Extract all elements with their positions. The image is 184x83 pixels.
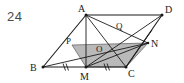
vertex-dot-B xyxy=(42,66,45,69)
label-D: D xyxy=(165,4,172,15)
label-C: C xyxy=(128,68,135,79)
label-B: B xyxy=(30,62,37,73)
label-M: M xyxy=(80,71,89,82)
geometry-diagram: A B C D M N O P Q xyxy=(0,0,184,83)
label-A: A xyxy=(78,3,86,14)
label-O: O xyxy=(96,44,103,54)
label-P: P xyxy=(66,36,71,46)
label-Q: Q xyxy=(116,21,123,31)
label-N: N xyxy=(151,38,158,49)
vertex-dot-N xyxy=(147,42,150,45)
vertex-dot-D xyxy=(161,14,164,17)
segment-AB xyxy=(43,15,86,67)
geometry-figure-container: 24 A B C xyxy=(0,0,184,83)
vertex-dot-M xyxy=(85,66,88,69)
